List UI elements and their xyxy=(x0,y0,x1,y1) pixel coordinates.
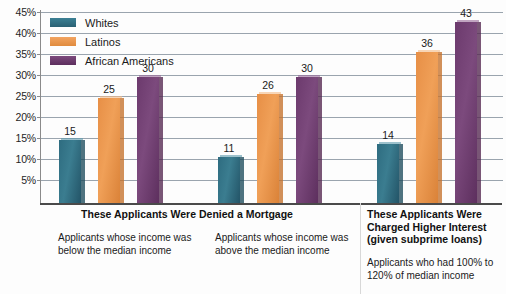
bar-value-label: 11 xyxy=(212,142,246,154)
group2-subcaption: Applicants whose income was above the me… xyxy=(215,232,355,257)
bar-side xyxy=(438,52,442,203)
bar-value-label: 36 xyxy=(410,37,444,49)
bar-face xyxy=(59,140,81,203)
bar-side xyxy=(240,157,244,203)
y-axis-tick-label: 15% xyxy=(0,132,36,144)
bar-group3-african-americans: 43 xyxy=(455,22,481,203)
bar-value-label: 30 xyxy=(290,62,324,74)
bar-side xyxy=(81,140,85,203)
legend: Whites Latinos African Americans xyxy=(50,14,200,71)
bar-value-label: 25 xyxy=(92,83,126,95)
bar-face xyxy=(98,98,120,203)
y-axis-tick-label: 10% xyxy=(0,153,36,165)
group1-subcaption: Applicants whose income was below the me… xyxy=(58,232,203,257)
legend-swatch-icon xyxy=(50,56,76,65)
bar-chart: 45% 40% 35% 30% 25% 20% 15% 10% 5% xyxy=(0,0,506,294)
legend-item-african-americans: African Americans xyxy=(50,52,200,69)
bar-side xyxy=(159,77,163,203)
legend-item-label: African Americans xyxy=(85,55,174,67)
bar-group3-whites: 14 xyxy=(377,144,403,203)
bar-side xyxy=(120,98,124,203)
bar-top xyxy=(100,96,122,98)
legend-item-label: Latinos xyxy=(85,36,120,48)
bar-top xyxy=(259,92,281,94)
legend-item-label: Whites xyxy=(85,17,119,29)
bar-value-label: 26 xyxy=(251,79,285,91)
group-divider xyxy=(360,203,361,294)
group3-subcaption: Applicants who had 100% to 120% of media… xyxy=(367,257,505,282)
bar-group1-african-americans: 30 xyxy=(137,77,163,203)
y-axis-tick-label: 45% xyxy=(0,6,36,18)
bar-top xyxy=(220,155,242,157)
y-axis-tick-label: 35% xyxy=(0,48,36,60)
bar-value-label: 43 xyxy=(449,7,483,19)
group3-heading: These Applicants Were Charged Higher Int… xyxy=(367,208,505,246)
x-axis-baseline xyxy=(40,203,502,205)
legend-swatch-icon xyxy=(50,37,76,46)
bar-side xyxy=(318,77,322,203)
y-axis-tick-label: 40% xyxy=(0,27,36,39)
bar-group1-whites: 15 xyxy=(59,140,85,203)
bar-group3-latinos: 36 xyxy=(416,52,442,203)
bar-face xyxy=(137,77,159,203)
group1-heading: These Applicants Were Denied a Mortgage xyxy=(62,208,312,221)
bar-side xyxy=(279,94,283,203)
bar-side xyxy=(399,144,403,203)
bar-face xyxy=(218,157,240,203)
bar-side xyxy=(477,22,481,203)
bar-group2-whites: 11 xyxy=(218,157,244,203)
legend-item-latinos: Latinos xyxy=(50,33,200,50)
bar-top xyxy=(457,20,479,22)
bar-top xyxy=(379,142,401,144)
y-axis-tick-label: 5% xyxy=(0,174,36,186)
bar-face xyxy=(416,52,438,203)
bar-top xyxy=(61,138,83,140)
bar-face xyxy=(377,144,399,203)
bar-face xyxy=(296,77,318,203)
bar-group1-latinos: 25 xyxy=(98,98,124,203)
legend-swatch-icon xyxy=(50,18,76,27)
y-axis-tick-label: 25% xyxy=(0,90,36,102)
y-axis-tick-label: 20% xyxy=(0,111,36,123)
legend-item-whites: Whites xyxy=(50,14,200,31)
bar-face xyxy=(455,22,477,203)
bar-group2-latinos: 26 xyxy=(257,94,283,203)
bar-value-label: 14 xyxy=(371,129,405,141)
bar-value-label: 15 xyxy=(53,125,87,137)
bar-top xyxy=(298,75,320,77)
bar-face xyxy=(257,94,279,203)
gridline xyxy=(41,12,503,13)
bar-top xyxy=(418,50,440,52)
y-axis-tick-label: 30% xyxy=(0,69,36,81)
bar-top xyxy=(139,75,161,77)
bar-group2-african-americans: 30 xyxy=(296,77,322,203)
